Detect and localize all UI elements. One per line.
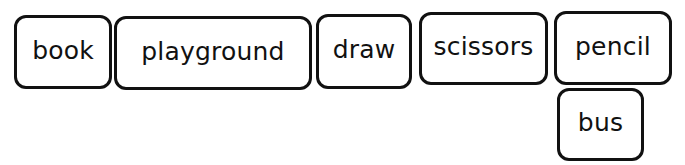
word-tile-pencil[interactable]: pencil — [554, 11, 672, 85]
word-tile-label: playground — [141, 39, 284, 68]
word-tile-book[interactable]: book — [14, 15, 112, 89]
word-tile-bus[interactable]: bus — [557, 88, 644, 161]
word-tile-playground[interactable]: playground — [114, 16, 312, 90]
word-tile-label: bus — [578, 110, 623, 139]
word-tile-label: book — [32, 38, 94, 67]
word-tile-label: pencil — [575, 34, 651, 63]
word-tile-draw[interactable]: draw — [316, 14, 412, 89]
word-tile-label: draw — [333, 37, 396, 66]
word-tile-scissors[interactable]: scissors — [419, 12, 548, 85]
word-tile-label: scissors — [434, 34, 534, 63]
